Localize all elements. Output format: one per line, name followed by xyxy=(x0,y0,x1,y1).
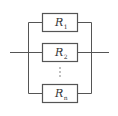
resistor-r1: R1 xyxy=(43,14,78,32)
resistor-rn: Rn xyxy=(43,85,78,103)
resistor-r2: R2 xyxy=(43,44,78,62)
ellipsis-dots xyxy=(59,67,60,76)
parallel-circuit-diagram: R1 R2 Rn xyxy=(0,0,118,116)
